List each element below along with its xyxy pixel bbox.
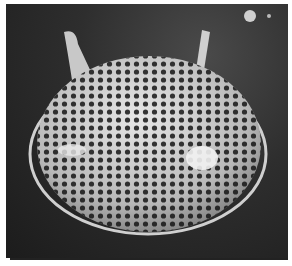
right-spine	[196, 30, 210, 70]
bright-patch-right	[186, 146, 218, 170]
shell-illustration	[6, 4, 288, 258]
bright-patch-left	[58, 144, 86, 156]
particle	[244, 10, 256, 22]
micrograph-photo	[6, 4, 288, 258]
particle	[267, 14, 271, 18]
bottom-border	[10, 258, 288, 260]
